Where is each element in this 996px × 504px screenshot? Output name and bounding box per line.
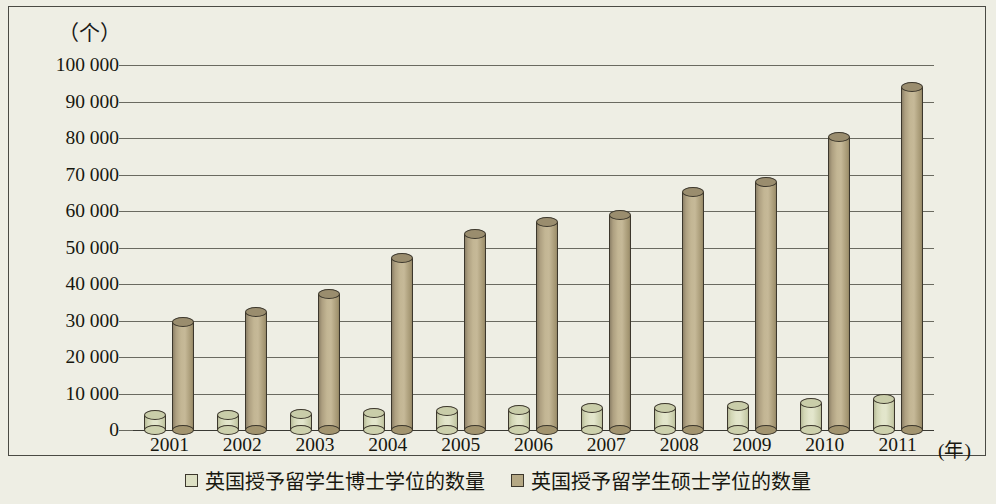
bar-doctoral [363, 408, 385, 430]
bar-base-ellipse [464, 425, 486, 435]
bar-doctoral [581, 403, 603, 430]
legend-label: 英国授予留学生硕士学位的数量 [531, 466, 811, 495]
y-axis-tick-mark [119, 248, 133, 249]
x-axis-tick-label: 2004 [368, 434, 407, 456]
bar-top-ellipse [800, 398, 822, 408]
y-axis-tick-label: 60 000 [65, 201, 119, 221]
y-axis-tick-mark [119, 430, 133, 431]
bar-base-ellipse [755, 425, 777, 435]
y-axis-tick-mark [119, 65, 133, 66]
bar-master [682, 187, 704, 430]
bar-body [755, 182, 777, 430]
bar-body [245, 312, 267, 430]
bar-base-ellipse [436, 425, 458, 435]
bar-series-container [133, 65, 934, 430]
bar-master [464, 229, 486, 430]
bar-master [755, 177, 777, 430]
bar-doctoral [508, 405, 530, 430]
x-axis-tick-label: 2002 [223, 434, 262, 456]
y-axis-unit-label: （个） [58, 16, 121, 46]
y-axis-tick-label: 50 000 [65, 238, 119, 258]
bar-doctoral [217, 410, 239, 430]
bar-master [901, 82, 923, 430]
legend-swatch-doctoral [185, 474, 198, 487]
bar-body [609, 215, 631, 430]
y-axis-tick-mark [119, 321, 133, 322]
bar-top-ellipse [682, 187, 704, 197]
x-axis-tick-label: 2007 [587, 434, 626, 456]
y-axis-tick-label: 0 [109, 420, 119, 440]
x-axis-tick-label: 2008 [660, 434, 699, 456]
x-axis-unit-label: (年) [938, 434, 971, 463]
y-axis-tick-label: 70 000 [65, 165, 119, 185]
bar-doctoral [654, 403, 676, 430]
chart-legend: 英国授予留学生博士学位的数量英国授予留学生硕士学位的数量 [0, 466, 996, 495]
bar-group [133, 65, 206, 430]
bar-doctoral [727, 401, 749, 430]
bar-doctoral [436, 406, 458, 430]
bar-master [609, 210, 631, 430]
bar-body [391, 258, 413, 430]
y-axis-tick-label: 10 000 [65, 384, 119, 404]
bar-base-ellipse [800, 425, 822, 435]
bar-group [424, 65, 497, 430]
bar-group [788, 65, 861, 430]
bar-body [828, 137, 850, 430]
bar-group [351, 65, 424, 430]
x-axis-tick-labels: 2001200220032004200520062007200820092010… [133, 434, 934, 464]
bar-group [279, 65, 352, 430]
bar-top-ellipse [901, 82, 923, 92]
y-axis-tick-label: 100 000 [56, 55, 119, 75]
bar-base-ellipse [391, 425, 413, 435]
bar-doctoral [800, 398, 822, 430]
x-axis-tick-label: 2009 [732, 434, 771, 456]
x-axis-tick-label: 2011 [878, 434, 916, 456]
bar-doctoral [290, 409, 312, 430]
x-axis-tick-label: 2001 [150, 434, 189, 456]
bar-top-ellipse [508, 405, 530, 415]
bar-group [206, 65, 279, 430]
plot-area [133, 65, 934, 430]
bar-group [570, 65, 643, 430]
bar-master [172, 317, 194, 430]
bar-group [497, 65, 570, 430]
bar-body [536, 222, 558, 430]
chart-figure: （个） 010 00020 00030 00040 00050 00060 00… [0, 0, 996, 504]
bar-body [172, 322, 194, 430]
y-axis-tick-mark [119, 211, 133, 212]
legend-swatch-master [511, 474, 524, 487]
x-axis-tick-label: 2005 [441, 434, 480, 456]
y-axis-tick-mark [119, 394, 133, 395]
bar-top-ellipse [172, 317, 194, 327]
bar-body [682, 192, 704, 430]
bar-base-ellipse [901, 425, 923, 435]
y-axis-tick-mark [119, 102, 133, 103]
bar-master [391, 253, 413, 430]
bar-body [464, 234, 486, 430]
bar-base-ellipse [363, 425, 385, 435]
bar-master [245, 307, 267, 430]
y-axis-tick-mark [119, 138, 133, 139]
legend-item: 英国授予留学生硕士学位的数量 [511, 466, 811, 495]
bar-master [828, 132, 850, 430]
bar-master [318, 289, 340, 430]
bar-group [643, 65, 716, 430]
y-axis-tick-mark [119, 357, 133, 358]
legend-label: 英国授予留学生博士学位的数量 [205, 466, 485, 495]
bar-top-ellipse [464, 229, 486, 239]
y-axis-tick-label: 80 000 [65, 128, 119, 148]
bar-doctoral [144, 410, 166, 430]
bar-top-ellipse [755, 177, 777, 187]
bar-top-ellipse [873, 394, 895, 404]
bar-base-ellipse [727, 425, 749, 435]
x-axis-tick-label: 2006 [514, 434, 553, 456]
bar-base-ellipse [654, 425, 676, 435]
bar-top-ellipse [654, 403, 676, 413]
bar-base-ellipse [318, 425, 340, 435]
y-axis-tick-label: 20 000 [65, 347, 119, 367]
bar-body [318, 294, 340, 430]
bar-top-ellipse [609, 210, 631, 220]
bar-master [536, 217, 558, 430]
bar-base-ellipse [682, 425, 704, 435]
legend-item: 英国授予留学生博士学位的数量 [185, 466, 485, 495]
